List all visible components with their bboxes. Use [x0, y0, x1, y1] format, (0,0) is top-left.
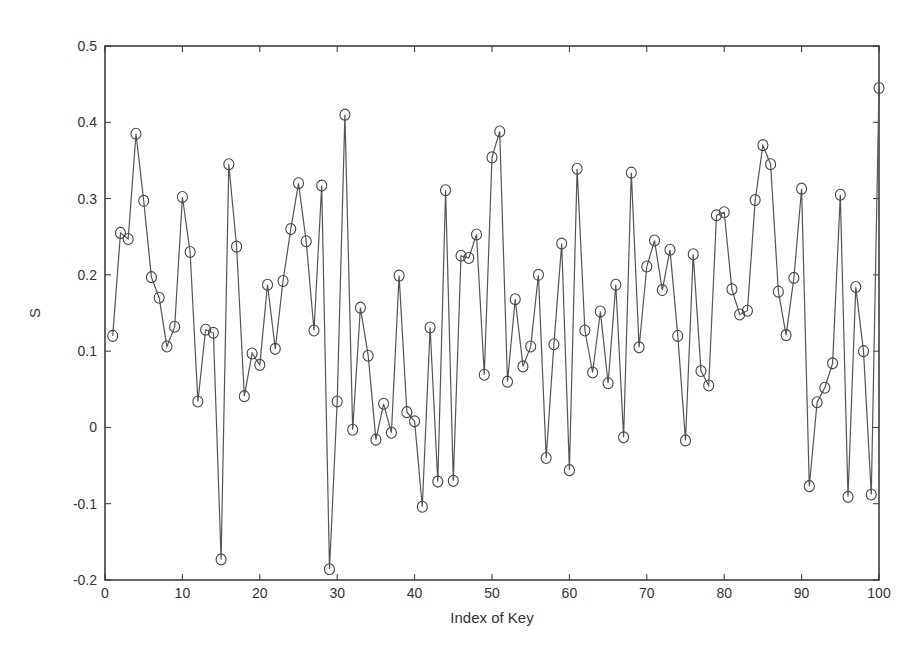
y-tick-label: 0	[89, 419, 97, 435]
y-tick-label: 0.5	[78, 38, 98, 54]
plot-area	[105, 46, 879, 580]
x-tick-label: 50	[484, 585, 500, 601]
x-tick-label: 100	[867, 585, 891, 601]
x-tick-label: 30	[329, 585, 345, 601]
y-tick-label: -0.2	[73, 572, 97, 588]
y-tick-label: 0.2	[78, 267, 98, 283]
x-tick-label: 40	[407, 585, 423, 601]
y-tick-label: 0.1	[78, 343, 98, 359]
x-tick-label: 20	[252, 585, 268, 601]
x-axis-label: Index of Key	[450, 609, 534, 626]
x-tick-label: 10	[175, 585, 191, 601]
x-tick-label: 60	[562, 585, 578, 601]
y-tick-label: -0.1	[73, 496, 97, 512]
x-tick-label: 90	[794, 585, 810, 601]
y-tick-label: 0.3	[78, 191, 98, 207]
x-tick-label: 0	[101, 585, 109, 601]
y-axis-label: S	[26, 308, 43, 318]
y-tick-label: 0.4	[78, 114, 98, 130]
x-tick-label: 70	[639, 585, 655, 601]
x-tick-label: 80	[716, 585, 732, 601]
line-chart: -0.2-0.100.10.20.30.40.5 010203040506070…	[0, 0, 923, 659]
